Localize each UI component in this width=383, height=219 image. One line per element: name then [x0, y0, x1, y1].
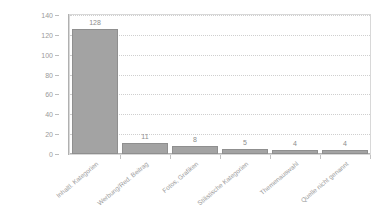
y-axis-tick-mark: [55, 55, 59, 56]
y-axis-tick-label: 100: [41, 51, 53, 58]
bar-value-label: 11: [141, 133, 148, 140]
bar-rect: [322, 150, 368, 154]
y-axis-tick-mark: [55, 94, 59, 95]
bar-chart: 020406080100120140 128118544 Inhaltl. Ka…: [0, 0, 383, 219]
y-axis-tick-label: 140: [41, 12, 53, 19]
y-axis-tick-label: 60: [45, 91, 53, 98]
bar-item: 128: [70, 15, 120, 154]
y-axis-tick-label: 80: [45, 71, 53, 78]
bar-value-label: 4: [293, 140, 297, 147]
bar-rect: [122, 143, 168, 154]
y-axis-tick-mark: [55, 15, 59, 16]
x-axis-labels: Inhaltl. KategorienWerbung/Red. BeitragF…: [0, 158, 383, 219]
y-axis-tick-label: 120: [41, 31, 53, 38]
bar-rect: [272, 150, 318, 154]
bar-item: 4: [320, 15, 370, 154]
y-axis-tick-mark: [55, 154, 59, 155]
y-axis-tick-mark: [55, 35, 59, 36]
bar-item: 5: [220, 15, 270, 154]
y-axis-tick-mark: [55, 114, 59, 115]
y-axis-tick-mark: [55, 75, 59, 76]
y-axis-tick-mark: [55, 134, 59, 135]
bar-item: 11: [120, 15, 170, 154]
bar-value-label: 4: [343, 140, 347, 147]
bar-item: 8: [170, 15, 220, 154]
y-axis-tick-label: 40: [45, 111, 53, 118]
bar-value-label: 128: [89, 19, 101, 26]
x-axis-category-label: Werbung/Red. Beitrag: [0, 160, 149, 219]
bar-rect: [172, 146, 218, 154]
bar-value-label: 8: [193, 136, 197, 143]
bar-rect: [72, 29, 118, 154]
bar-series: 128118544: [70, 15, 370, 154]
bar-item: 4: [270, 15, 320, 154]
bar-value-label: 5: [243, 139, 247, 146]
y-axis-tick-label: 0: [49, 151, 53, 158]
y-axis: 020406080100120140: [0, 0, 69, 156]
y-axis-tick-label: 20: [45, 131, 53, 138]
bar-rect: [222, 149, 268, 154]
